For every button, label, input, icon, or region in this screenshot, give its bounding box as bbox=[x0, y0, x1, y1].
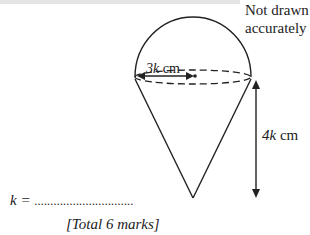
radius-label: 3k cm bbox=[146, 60, 180, 77]
note-accurately: accurately bbox=[245, 20, 307, 37]
height-label-unit: cm bbox=[276, 127, 298, 143]
height-arrow-head-top bbox=[252, 80, 260, 89]
ellipse-front-dashed bbox=[135, 77, 251, 84]
cone-left-edge bbox=[135, 79, 193, 198]
cone-right-edge bbox=[193, 79, 251, 198]
height-label: 4k cm bbox=[262, 127, 298, 144]
height-arrow-head-bottom bbox=[252, 189, 260, 198]
centre-point bbox=[193, 74, 197, 78]
answer-prefix: k = bbox=[10, 192, 34, 208]
radius-arrow-head-right bbox=[186, 72, 194, 80]
total-marks: [Total 6 marks] bbox=[66, 216, 160, 233]
radius-label-var: 3k bbox=[146, 61, 159, 76]
answer-blank[interactable]: ............................... bbox=[34, 194, 133, 208]
radius-label-unit: cm bbox=[159, 61, 180, 76]
note-not-drawn: Not drawn bbox=[245, 2, 309, 19]
height-label-var: 4k bbox=[262, 127, 276, 143]
answer-line: k = ............................... bbox=[10, 192, 133, 210]
